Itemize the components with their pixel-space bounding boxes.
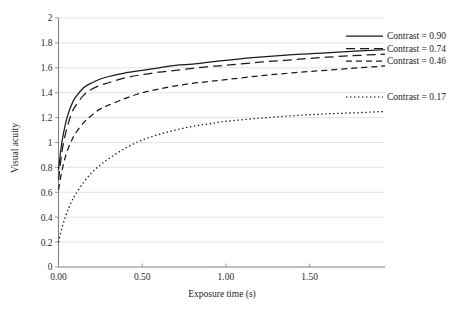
legend-label-0-46: Contrast = 0.46 bbox=[387, 56, 446, 66]
y-tick-label: 1.2 bbox=[41, 113, 53, 123]
y-tick-label: 0.4 bbox=[41, 213, 53, 223]
y-tick-label: 0.2 bbox=[41, 238, 53, 248]
x-tick-label: 1.50 bbox=[301, 272, 318, 282]
x-tick-label: 1.00 bbox=[218, 272, 235, 282]
curve-contrast-0-17 bbox=[59, 111, 386, 242]
y-tick-label: 0 bbox=[48, 262, 53, 272]
legend: Contrast = 0.90Contrast = 0.74Contrast =… bbox=[346, 31, 446, 102]
data-curves bbox=[59, 50, 386, 242]
legend-label-0-17: Contrast = 0.17 bbox=[387, 92, 446, 102]
y-axis-title: Visual acuity bbox=[10, 123, 20, 173]
y-tick-label: 1.6 bbox=[41, 63, 53, 73]
y-tick-label: 0.6 bbox=[41, 188, 53, 198]
y-tick-label: 1.8 bbox=[41, 38, 53, 48]
y-tick-label: 1.4 bbox=[41, 88, 53, 98]
curve-contrast-0-46 bbox=[59, 66, 386, 190]
visual-acuity-chart: 0.000.501.001.50 00.20.40.60.811.21.41.6… bbox=[0, 0, 463, 314]
x-tick-label: 0.00 bbox=[50, 272, 67, 282]
y-tick-label: 1 bbox=[48, 138, 53, 148]
y-tick-label: 2 bbox=[48, 13, 53, 23]
y-tick-labels: 00.20.40.60.811.21.41.61.82 bbox=[41, 13, 53, 272]
legend-label-0-9: Contrast = 0.90 bbox=[387, 31, 446, 41]
curve-contrast-0-74 bbox=[59, 54, 386, 180]
x-axis-title: Exposure time (s) bbox=[188, 289, 256, 300]
x-tick-label: 0.50 bbox=[134, 272, 151, 282]
plot-gridlines bbox=[59, 18, 386, 242]
x-tick-labels: 0.000.501.001.50 bbox=[50, 272, 318, 282]
y-tick-label: 0.8 bbox=[41, 163, 53, 173]
legend-label-0-74: Contrast = 0.74 bbox=[387, 44, 446, 54]
